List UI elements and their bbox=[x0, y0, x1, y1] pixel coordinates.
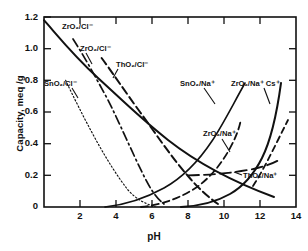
curve-annotation-tho2-cl: ThO₂/Cl⁻ bbox=[116, 60, 148, 69]
y-axis-ticks bbox=[44, 17, 51, 175]
x-axis-ticks-top bbox=[80, 17, 260, 24]
curve-annotation-zro2-na-cs: ZrO₂/Na⁺ Cs⁺ bbox=[231, 79, 280, 88]
x-tick-label-8: 8 bbox=[175, 210, 201, 221]
curve-annotation-zro2-na: ZrO₂/Na⁺ bbox=[203, 129, 236, 138]
curve-sno2-cl-dotted bbox=[66, 80, 155, 206]
x-tick-label-10: 10 bbox=[211, 210, 237, 221]
annotation-leaders bbox=[72, 53, 270, 175]
y-tick-label-1p2: 1.2 bbox=[4, 11, 38, 22]
x-tick-label-4: 4 bbox=[103, 210, 129, 221]
curve-annotation-zro2-cl-1: ZrO₂/Cl⁻ bbox=[62, 22, 93, 31]
chart-figure: 0 0.2 0.4 0.6 0.8 1.0 1.2 2 4 6 8 10 12 … bbox=[0, 0, 308, 251]
y-axis-ticks-right bbox=[289, 49, 296, 176]
y-axis-title: Capacity, meq /g bbox=[14, 49, 25, 179]
x-tick-label-2: 2 bbox=[67, 210, 93, 221]
curve-annotation-sno2-na: SnO₂/Na⁺ bbox=[180, 79, 215, 88]
curve-annotation-sno2-cl: SnO₂/Cl⁻ bbox=[44, 79, 77, 88]
curve-annotation-tho2-na: ThO₂/Na⁺ bbox=[243, 171, 277, 180]
x-tick-label-6: 6 bbox=[139, 210, 165, 221]
x-tick-label-14: 14 bbox=[283, 210, 308, 221]
curve-annotation-zro2-cl-2: ZrO₂/Cl⁻ bbox=[80, 44, 111, 53]
x-axis-title: pH bbox=[0, 231, 308, 242]
y-tick-label-0: 0 bbox=[4, 200, 38, 211]
x-tick-label-12: 12 bbox=[247, 210, 273, 221]
